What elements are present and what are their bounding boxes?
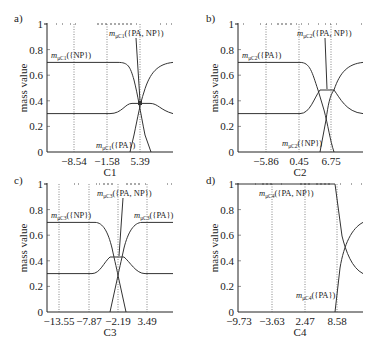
svg-text:0.4: 0.4: [29, 95, 43, 107]
panel-a-ylabel: mass value: [17, 64, 29, 113]
panel-d-ylabel: mass value: [208, 224, 220, 273]
svg-text:0.2: 0.2: [220, 280, 234, 292]
panel-a-yticks: 0 0.2 0.4 0.6 0.8 1: [29, 18, 43, 158]
panel-b-curve-panp: [238, 90, 363, 114]
panel-d-ann-pa: mμC4({PA}): [296, 290, 336, 301]
panel-b-xlabel: C2: [294, 166, 307, 178]
panel-b-ann-pa: mμC2({PA}): [242, 50, 282, 61]
svg-text:5.39: 5.39: [130, 155, 150, 167]
panel-b-ylabel: mass value: [208, 64, 220, 113]
svg-text:−8.54: −8.54: [61, 155, 87, 167]
svg-text:−3.63: −3.63: [259, 315, 285, 327]
panel-b-ann-np: mμC2({NP}): [282, 138, 322, 149]
panel-d-label: d): [206, 174, 216, 187]
svg-text:0.6: 0.6: [29, 229, 43, 241]
panel-a-label: a): [14, 12, 23, 25]
svg-text:6.75: 6.75: [321, 155, 341, 167]
panel-a-ann-np: mμC1({NP}): [51, 50, 91, 61]
svg-text:0.6: 0.6: [220, 229, 234, 241]
svg-text:0.6: 0.6: [29, 69, 43, 81]
panel-a-curve-pa: [130, 62, 173, 152]
panel-c-ann-np: mμC3({NP}): [51, 210, 91, 221]
svg-text:0.8: 0.8: [29, 44, 43, 56]
svg-text:−13.55: −13.55: [44, 315, 75, 327]
svg-text:1: 1: [38, 178, 44, 190]
panel-c-curve-panp: [47, 257, 173, 274]
svg-text:−7.87: −7.87: [76, 315, 102, 327]
chart-figure: a) 0 0.2 0.4 0.6 0.8 1 mass value: [0, 0, 379, 349]
svg-text:0.2: 0.2: [220, 120, 234, 132]
panel-c-yticks: 0 0.2 0.4 0.6 0.8 1: [29, 178, 43, 318]
panel-b: b) 0 0.2 0.4 0.6 0.8 1 mass value −5.86 …: [206, 12, 363, 178]
svg-text:3.49: 3.49: [137, 315, 157, 327]
panel-d-ann-panp: mμC4({PA, NP}): [259, 188, 314, 199]
svg-text:0.8: 0.8: [29, 204, 43, 216]
svg-text:0.4: 0.4: [220, 255, 234, 267]
panel-c: c) 0 0.2 0.4 0.6 0.8 1 mass value −13.55…: [14, 174, 174, 338]
panel-b-yticks: 0 0.2 0.4 0.6 0.8 1: [220, 18, 234, 158]
svg-text:0: 0: [229, 146, 235, 158]
panel-a-xlabel: C1: [104, 166, 117, 178]
panel-d: d) 0 0.2 0.4 0.6 0.8 1 mass value −9.73 …: [206, 174, 363, 338]
panel-c-curve-pa: [110, 222, 173, 312]
panel-c-ann-panp: mμC3({PA, NP}): [97, 188, 152, 199]
svg-text:1: 1: [229, 178, 235, 190]
panel-d-curve-pa: [335, 222, 363, 312]
panel-a: a) 0 0.2 0.4 0.6 0.8 1 mass value: [14, 12, 173, 178]
svg-text:−5.86: −5.86: [253, 155, 279, 167]
panel-a-curve-np: [47, 62, 151, 152]
svg-text:0.6: 0.6: [220, 69, 234, 81]
panel-a-curve-panp: [47, 103, 173, 113]
svg-text:0.4: 0.4: [29, 255, 43, 267]
panel-c-ylabel: mass value: [17, 224, 29, 273]
svg-text:−9.73: −9.73: [226, 315, 252, 327]
svg-text:1: 1: [38, 18, 44, 30]
svg-text:0: 0: [38, 146, 44, 158]
panel-c-xlabel: C3: [104, 326, 117, 338]
panel-c-ann-pa: mμC3({PA}): [134, 210, 174, 221]
panel-a-ann-panp: mμC1({PA, NP}): [109, 28, 164, 39]
panel-d-yticks: 0 0.2 0.4 0.6 0.8 1: [220, 178, 234, 318]
svg-text:1: 1: [229, 18, 235, 30]
panel-b-label: b): [206, 12, 216, 25]
svg-text:0.2: 0.2: [29, 280, 43, 292]
panel-c-label: c): [14, 174, 23, 187]
panel-b-ann-panp: mμC2({PA, NP}): [297, 28, 352, 39]
panel-d-xlabel: C4: [294, 326, 307, 338]
svg-text:0.2: 0.2: [29, 120, 43, 132]
svg-text:0.4: 0.4: [220, 95, 234, 107]
svg-text:0.8: 0.8: [220, 204, 234, 216]
svg-text:8.58: 8.58: [327, 315, 347, 327]
svg-text:0.8: 0.8: [220, 44, 234, 56]
panel-a-ann-pa: mμC1({PA}): [96, 140, 136, 151]
